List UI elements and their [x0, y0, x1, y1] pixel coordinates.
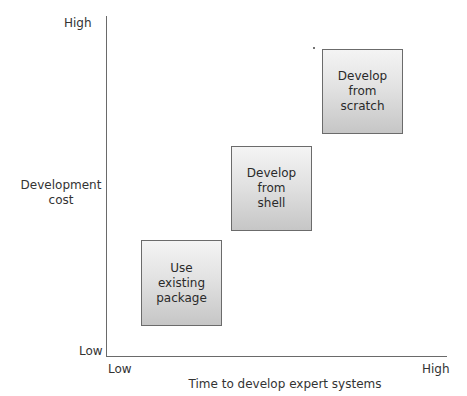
- y-axis-line: [106, 16, 107, 357]
- x-axis-high-label: High: [422, 362, 450, 376]
- stray-dot-mark: [313, 47, 315, 49]
- box-develop-from-shell: Develop from shell: [231, 146, 312, 231]
- box-develop-from-scratch: Develop from scratch: [322, 49, 403, 134]
- x-axis-line: [106, 356, 447, 357]
- y-axis-high-label: High: [64, 16, 92, 30]
- box-use-existing-package: Use existing package: [141, 240, 222, 326]
- box-label: Develop from shell: [247, 166, 296, 211]
- box-label: Use existing package: [156, 261, 207, 306]
- x-axis-low-label: Low: [108, 362, 132, 376]
- y-axis-title: Development cost: [18, 178, 104, 208]
- y-axis-low-label: Low: [79, 344, 103, 358]
- x-axis-title: Time to develop expert systems: [150, 377, 420, 391]
- box-label: Develop from scratch: [338, 69, 387, 114]
